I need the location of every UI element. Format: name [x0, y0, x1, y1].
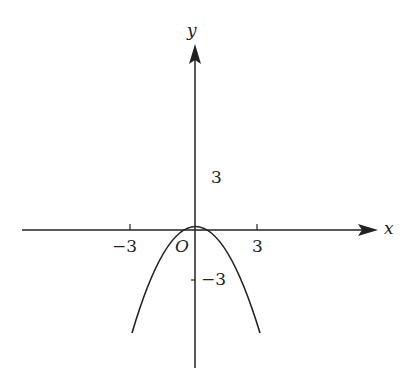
tick-label-x-pos3: 3 [252, 236, 263, 256]
origin-label: O [175, 236, 189, 256]
parabola-curve [132, 227, 260, 334]
tick-label-y-neg3: −3 [201, 269, 226, 289]
tick-label-y-pos3: 3 [211, 167, 222, 187]
x-axis-label: x [384, 218, 394, 238]
y-axis-label: y [186, 20, 197, 40]
tick-label-x-neg3: −3 [112, 236, 137, 256]
parabola-diagram: y x O −3 3 3 −3 [0, 0, 406, 368]
